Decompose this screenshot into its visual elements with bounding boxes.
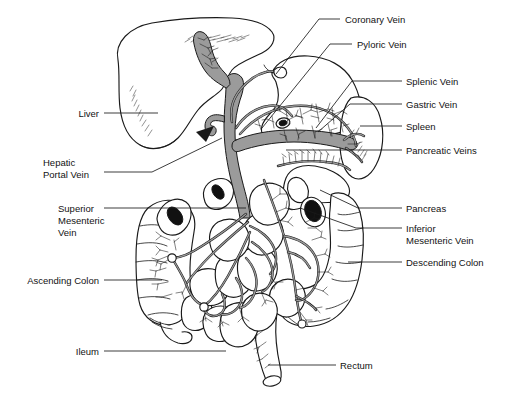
label-liver: Liver bbox=[78, 108, 99, 119]
label-spleen: Spleen bbox=[406, 121, 436, 132]
anatomical-diagram-figure: Coronary Vein Pyloric Vein Splenic Vein … bbox=[0, 0, 505, 400]
label-pancreatic-veins: Pancreatic Veins bbox=[406, 145, 477, 156]
label-rectum: Rectum bbox=[340, 360, 373, 371]
label-hepatic-portal-vein-line2: Portal Vein bbox=[43, 169, 89, 180]
label-pancreas: Pancreas bbox=[406, 203, 446, 214]
label-ileum: Ileum bbox=[76, 346, 99, 357]
label-superior-mesenteric-vein-line2: Mesenteric bbox=[58, 215, 105, 226]
vessel-stump-upper bbox=[203, 179, 233, 210]
label-superior-mesenteric-vein-line3: Vein bbox=[58, 227, 77, 238]
label-ascending-colon: Ascending Colon bbox=[27, 275, 99, 286]
label-pyloric-vein: Pyloric Vein bbox=[357, 39, 407, 50]
hepatic-portal-system-illustration: Coronary Vein Pyloric Vein Splenic Vein … bbox=[0, 0, 505, 400]
label-gastric-vein: Gastric Vein bbox=[406, 99, 457, 110]
label-descending-colon: Descending Colon bbox=[406, 257, 484, 268]
label-inferior-mesenteric-vein-line1: Inferior bbox=[406, 223, 436, 234]
label-coronary-vein: Coronary Vein bbox=[345, 14, 405, 25]
label-splenic-vein: Splenic Vein bbox=[406, 76, 458, 87]
label-hepatic-portal-vein-line1: Hepatic bbox=[43, 157, 75, 168]
label-superior-mesenteric-vein-line1: Superior bbox=[58, 203, 94, 214]
label-inferior-mesenteric-vein-line2: Mesenteric Vein bbox=[406, 235, 474, 246]
